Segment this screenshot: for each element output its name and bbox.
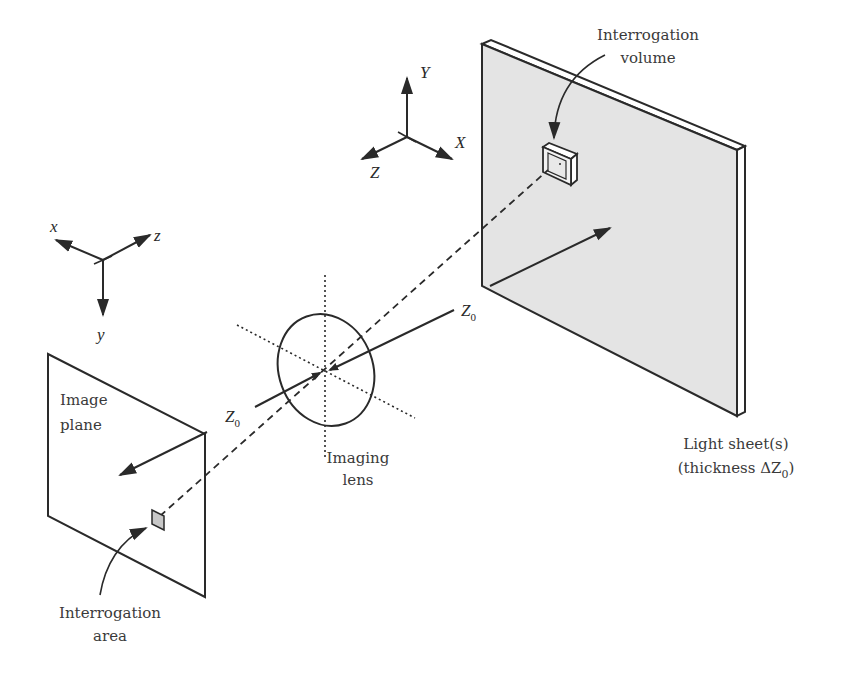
light-sheet-label-2: (thickness ΔZ0) [678,459,795,481]
image-y-label: y [95,325,105,344]
image-plane-label-2: plane [60,416,102,434]
z0-object-label: Z0 [461,301,476,323]
image-x-label: x [49,217,58,236]
imaging-lens-label-1: Imaging [327,449,390,467]
lens-diagonal-axis [237,325,415,418]
world-y-label: Y [420,63,431,82]
image-plane-arrow [120,432,207,475]
interrogation-area-pointer [100,528,146,595]
image-z-label: z [153,226,161,245]
image-plane-label-1: Image [60,391,108,409]
imaging-lens-label-2: lens [342,471,373,489]
world-z-arrow [362,137,407,159]
lens-ellipse [262,300,389,439]
z0-image-label: Z0 [225,407,240,429]
light-sheet-label-1: Light sheet(s) [683,435,788,453]
piv-diagram: Interrogation volume Y X Z x z y Imaging… [0,0,851,673]
light-sheet [482,40,745,416]
world-z-label: Z [370,163,380,182]
interrogation-volume-label-2: volume [619,49,675,67]
interrogation-area-label-2: area [93,627,127,645]
image-x-arrow [56,240,103,260]
interrogation-area-label-1: Interrogation [59,604,161,622]
z0-object-arrow [330,310,454,370]
world-x-label: X [454,133,466,152]
world-axes: Y X Z [362,63,466,182]
image-axes: x z y [49,217,161,344]
interrogation-volume-label-1: Interrogation [597,26,699,44]
